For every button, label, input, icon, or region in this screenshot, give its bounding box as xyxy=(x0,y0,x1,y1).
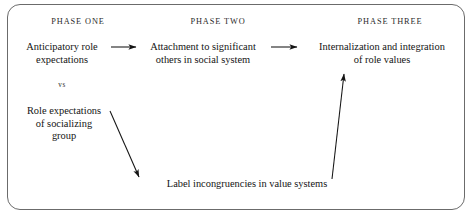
node-attachment-significant-others: Attachment to significantothers in socia… xyxy=(135,41,271,66)
phase-one-header: PHASE ONE xyxy=(18,17,138,26)
node-role-expectations-socializing-group: Role expectationsof socializinggroup xyxy=(12,105,116,143)
node-internalization-integration: Internalization and integrationof role v… xyxy=(296,41,468,66)
node-anticipatory-role-expectations: Anticipatory roleexpectations xyxy=(10,41,114,66)
figure-container: PHASE ONE PHASE TWO PHASE THREE Anticipa… xyxy=(0,0,475,219)
phase-two-header: PHASE TWO xyxy=(158,17,278,26)
node-vs-separator: vs xyxy=(22,81,102,89)
node-label-incongruencies: Label incongruencies in value systems xyxy=(142,178,352,191)
phase-three-header: PHASE THREE xyxy=(330,17,450,26)
